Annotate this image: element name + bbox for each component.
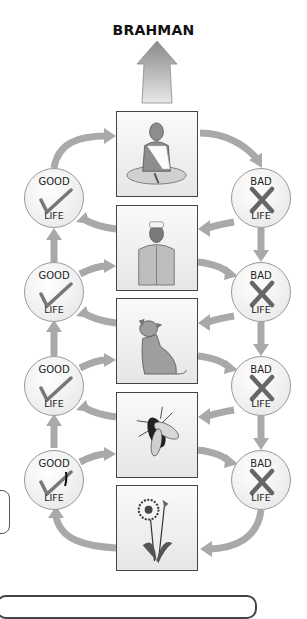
bad-life-circle: BAD LIFE: [231, 356, 291, 416]
flower-icon: [117, 486, 196, 569]
bad-life-circle: BAD LIFE: [231, 262, 291, 322]
good-life-circle: GOOD LIFE: [24, 450, 84, 510]
life-label: LIFE: [232, 304, 290, 315]
man-icon: [117, 206, 196, 289]
bad-life-circle: BAD LIFE: [231, 168, 291, 228]
life-label: LIFE: [25, 304, 83, 315]
life-label: LIFE: [232, 210, 290, 221]
stage-frame-fly: [116, 392, 198, 478]
bad-life-circle: BAD LIFE: [231, 450, 291, 510]
meditating-priest-icon: [117, 112, 196, 195]
good-life-circle: GOOD LIFE: [24, 262, 84, 322]
stage-frame-flower: [116, 485, 198, 571]
dog-icon: [117, 299, 196, 382]
stage-frame-man: [116, 205, 198, 291]
life-label: LIFE: [232, 398, 290, 409]
stage-frame-priest: [116, 111, 198, 197]
up-arrow-icon: [137, 41, 177, 103]
good-life-circle: GOOD LIFE: [24, 356, 84, 416]
bottom-panel-edge: [0, 595, 257, 619]
life-label: LIFE: [25, 210, 83, 221]
good-life-circle: GOOD LIFE: [24, 168, 84, 228]
life-label: LIFE: [25, 398, 83, 409]
life-label: LIFE: [232, 492, 290, 503]
side-panel-edge: [0, 490, 10, 534]
life-label: LIFE: [25, 492, 83, 503]
stage-frame-dog: [116, 298, 198, 384]
fly-icon: [117, 393, 196, 476]
